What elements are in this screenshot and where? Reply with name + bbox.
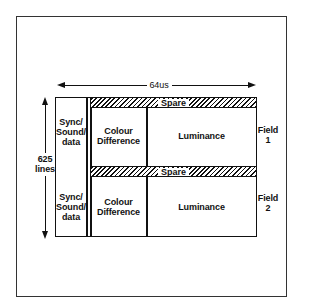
field-1-label-line1: Field: [256, 125, 280, 135]
duration-label: 64us: [146, 80, 172, 90]
field-1-label-line2: 1: [256, 135, 280, 145]
lines-arrow-line-bottom: [45, 176, 46, 232]
luminance-label-field-2: Luminance: [147, 202, 256, 212]
field-2-label-line2: 2: [256, 203, 280, 213]
sync-label-field-1-line1: Sync/: [56, 117, 86, 127]
duration-arrow-line-left: [63, 85, 147, 86]
colour-label-field-2-line1: Colour: [91, 197, 146, 207]
duration-arrow-line-right: [172, 85, 250, 86]
colour-label-field-2-line2: Difference: [91, 207, 146, 217]
lines-arrow-line-top: [45, 103, 46, 153]
sync-label-field-1-line2: Sound/: [56, 127, 86, 137]
sync-label-field-2-line1: Sync/: [56, 192, 86, 202]
sync-label-field-1-line3: data: [56, 137, 86, 147]
arrow-down-icon: [42, 231, 48, 239]
arrow-right-icon: [248, 82, 256, 88]
colour-label-field-1-line2: Difference: [91, 136, 146, 146]
sync-label-field-2-line3: data: [56, 212, 86, 222]
spare-label-field-2: Spare: [158, 168, 189, 176]
spare-label-field-1: Spare: [158, 99, 189, 107]
field-2-label-line1: Field: [256, 193, 280, 203]
sync-label-field-2-line2: Sound/: [56, 202, 86, 212]
luminance-label-field-1: Luminance: [147, 131, 256, 141]
sync-divider-outer: [86, 97, 88, 237]
colour-label-field-1-line1: Colour: [91, 126, 146, 136]
